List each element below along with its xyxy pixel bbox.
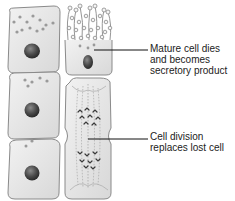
left-cell-top [8, 6, 60, 73]
annotation-line: and becomes [150, 54, 227, 65]
nucleus [24, 44, 40, 59]
annotation-cell-division: Cell division replaces lost cell [150, 131, 224, 153]
right-cell-secreting [65, 4, 112, 75]
nucleus [25, 166, 40, 181]
holocrine-gland-diagram [0, 0, 235, 201]
annotation-line: replaces lost cell [150, 142, 224, 153]
annotation-mature-cell-dies: Mature cell dies and becomes secretory p… [150, 43, 227, 76]
annotation-line: secretory product [150, 65, 227, 76]
left-cell-bottom [8, 139, 60, 199]
left-cell-middle [8, 72, 60, 139]
annotation-line: Cell division [150, 131, 224, 142]
nucleus [83, 55, 93, 69]
right-cell-dividing [65, 78, 111, 199]
nucleus [25, 103, 40, 118]
annotation-line: Mature cell dies [150, 43, 227, 54]
